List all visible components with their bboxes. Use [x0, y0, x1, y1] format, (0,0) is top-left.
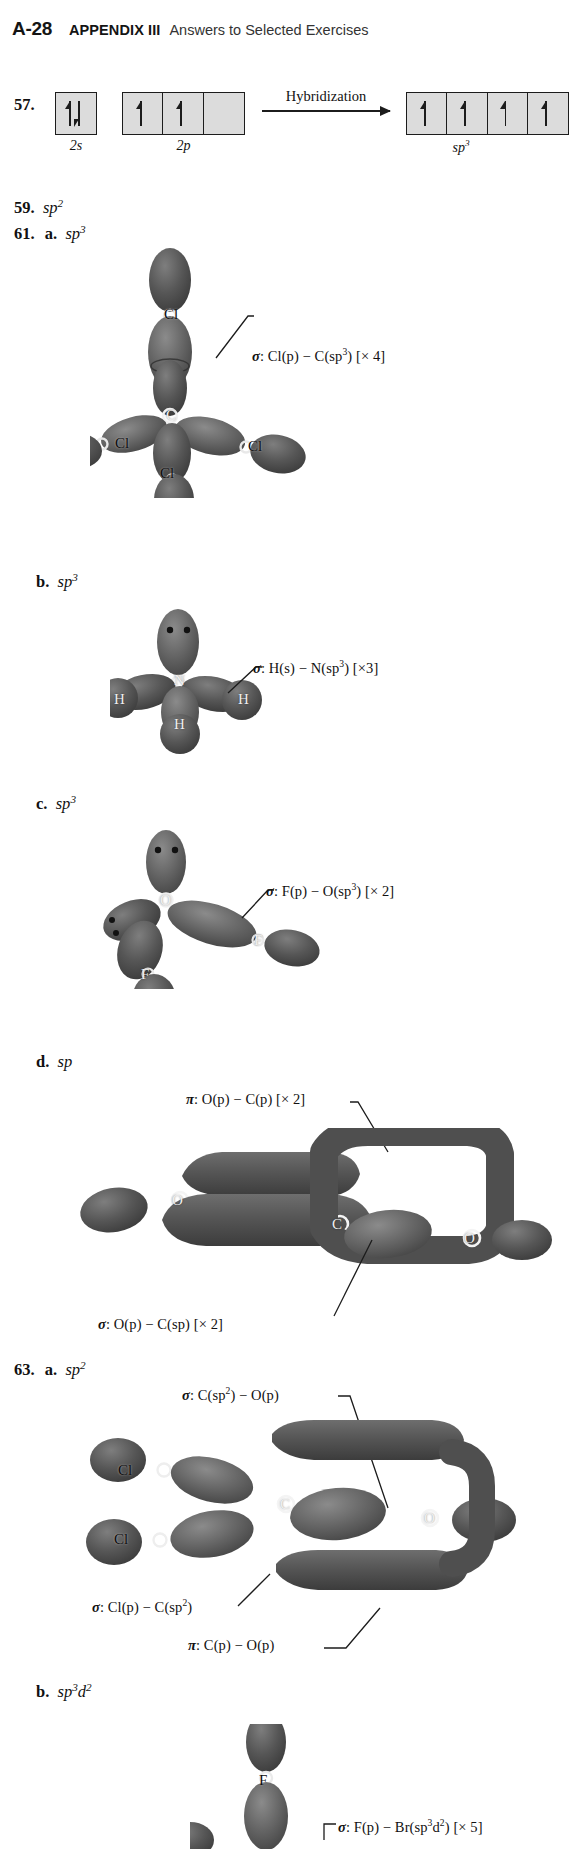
part-letter-d: d. — [36, 1052, 49, 1071]
answer-value-61c: sp3 — [52, 794, 76, 813]
callout-sigma-c-o-cocl2: σ: C(sp2) − O(p) — [182, 1385, 279, 1404]
atom-label-o-right-cocl2: O — [424, 1510, 435, 1527]
callout-pi-cocl2: π: C(p) − O(p) — [188, 1637, 274, 1654]
answer-value-59: sp2 — [39, 198, 63, 217]
page-header: A-28 APPENDIX III Answers to Selected Ex… — [12, 18, 369, 40]
answer-61d: d. sp — [36, 1052, 72, 1072]
callout-leader-sigma-co2 — [300, 1238, 380, 1320]
atom-label-f-right: F — [254, 932, 262, 949]
orbital-box-sp3-4 — [527, 92, 569, 135]
callout-sigma-nh3: σ: H(s) − N(sp3) [×3] — [253, 658, 378, 677]
callout-sigma-ccl4: σ: Cl(p) − C(sp3) [× 4] — [252, 346, 385, 365]
atom-label-o-right-co2: O — [464, 1230, 475, 1247]
orbital-box-2p-1 — [122, 92, 164, 135]
orbital-box-2s-1 — [55, 92, 97, 135]
atom-label-c-center-co2: C — [332, 1216, 342, 1233]
atom-label-cl-bottom: Cl — [160, 465, 174, 482]
answer-59: 59. sp2 — [14, 196, 63, 218]
electron-arrow-up — [424, 101, 426, 126]
part-letter-c: c. — [36, 794, 47, 813]
orbital-diagram-ccl4 — [90, 248, 390, 498]
electron-arrow-up — [545, 101, 547, 126]
atom-label-o-center: O — [160, 892, 171, 909]
callout-sigma-cl-c-cocl2: σ: Cl(p) − C(sp2) — [92, 1597, 192, 1616]
atom-label-cl-left: Cl — [115, 435, 129, 452]
orbital-group-2p: 2p — [122, 92, 245, 154]
answer-value-63b: sp3d2 — [53, 1682, 91, 1701]
appendix-label: APPENDIX III — [69, 22, 160, 38]
callout-pi-co2: π: O(p) − C(p) [× 2] — [186, 1091, 305, 1108]
answer-number-59: 59. — [14, 198, 35, 217]
hybridization-arrow-group: Hybridization — [262, 88, 390, 112]
atom-label-cl-lower-cocl2: Cl — [114, 1531, 128, 1548]
atom-label-n-center: N — [174, 672, 185, 689]
orbital-box-2p-3 — [203, 92, 245, 135]
atom-label-c-center: C — [166, 407, 176, 424]
orbital-diagram-cocl2 — [14, 1418, 562, 1608]
orbital-box-sp3-3 — [487, 92, 529, 135]
orbital-box-sp3-1 — [406, 92, 448, 135]
atom-label-cl-top: Cl — [164, 306, 178, 323]
orbital-label-sp3: sp3 — [406, 138, 516, 156]
electron-arrow-up — [180, 101, 182, 126]
part-letter-63a: a. — [45, 1360, 57, 1379]
callout-sigma-co2: σ: O(p) − C(sp) [× 2] — [98, 1316, 223, 1333]
arrow-right-icon — [262, 110, 390, 112]
part-letter-b: b. — [36, 572, 49, 591]
part-letter-a: a. — [45, 224, 57, 243]
hybridization-label: Hybridization — [262, 88, 390, 105]
callout-leader-sigma-cl-c — [236, 1570, 276, 1612]
answer-63b: b. sp3d2 — [36, 1680, 92, 1702]
orbital-box-sp3-2 — [446, 92, 488, 135]
atom-label-f-left: F — [141, 966, 149, 983]
callout-leader-pi-cocl2 — [322, 1604, 388, 1654]
orbital-box-2p-2 — [162, 92, 204, 135]
orbital-row — [122, 92, 245, 135]
atom-label-h-left: H — [114, 691, 125, 708]
page-folio: A-28 — [12, 18, 52, 40]
answer-value-61b: sp3 — [53, 572, 77, 591]
orbital-group-sp3: sp3 — [406, 92, 569, 156]
electron-arrow-up — [464, 101, 466, 126]
orbital-diagram-co2 — [14, 1128, 562, 1303]
atom-label-h-bottom: H — [174, 716, 185, 733]
answer-61c: c. sp3 — [36, 792, 76, 814]
orbital-row — [406, 92, 569, 135]
callout-sigma-of2: σ: F(p) − O(sp3) [× 2] — [266, 881, 394, 900]
answer-value-61a: sp3 — [61, 224, 85, 243]
electron-arrow-up — [140, 101, 142, 126]
orbital-group-2s: 2s — [55, 92, 97, 154]
answer-63a: 63. a. sp2 — [14, 1358, 86, 1380]
part-letter-63b: b. — [36, 1682, 49, 1701]
orbital-label-2s: 2s — [55, 138, 97, 154]
header-subtitle: Answers to Selected Exercises — [169, 22, 368, 38]
answer-number-63: 63. — [14, 1360, 35, 1379]
atom-label-cl-right: Cl — [248, 438, 262, 455]
callout-leader-ccl4 — [190, 312, 260, 364]
atom-label-o-left-co2: O — [172, 1192, 183, 1209]
answer-value-61d: sp — [53, 1052, 72, 1071]
orbital-label-2p: 2p — [122, 138, 245, 154]
answer-number-57: 57. — [14, 95, 35, 115]
answer-number-61: 61. — [14, 224, 35, 243]
electron-arrow-up — [505, 101, 507, 126]
atom-label-f-brf5: F — [259, 1772, 267, 1789]
answer-61a: 61. a. sp3 — [14, 222, 86, 244]
answer-61b: b. sp3 — [36, 570, 78, 592]
callout-sigma-brf5: σ: F(p) − Br(sp3d2) [× 5] — [338, 1817, 483, 1836]
atom-label-c-center-cocl2: C — [280, 1496, 290, 1513]
orbital-row — [55, 92, 97, 135]
answer-value-63a: sp2 — [61, 1360, 85, 1379]
atom-label-cl-upper-cocl2: Cl — [118, 1462, 132, 1479]
electron-arrow-down — [78, 101, 80, 126]
electron-arrow-up — [69, 101, 71, 126]
